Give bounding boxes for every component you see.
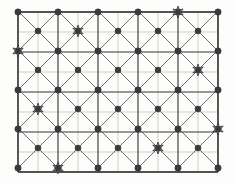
mesh-figure [0, 0, 235, 183]
mesh-node-dot [215, 87, 221, 93]
mesh-node-dot [95, 48, 101, 54]
mesh-node-dot [15, 126, 21, 132]
mesh-node-dot [215, 9, 221, 15]
mesh-node-dot [15, 87, 21, 93]
mesh-node-dot [35, 67, 41, 73]
mesh-node-dot [15, 165, 21, 171]
mesh-node-dot [155, 67, 161, 73]
mesh-node-dot [175, 165, 181, 171]
mesh-node-dot [95, 9, 101, 15]
mesh-node-dot [55, 126, 61, 132]
mesh-node-star-core [175, 9, 180, 14]
mesh-node-dot [115, 67, 121, 73]
mesh-node-star-core [15, 48, 20, 53]
mesh-node-star-core [155, 145, 160, 150]
mesh-node-dot [35, 28, 41, 34]
mesh-node-dot [175, 126, 181, 132]
mesh-node-dot [75, 67, 81, 73]
mesh-node-dot [195, 145, 201, 151]
mesh-node-dot [135, 48, 141, 54]
mesh-node-dot [55, 48, 61, 54]
mesh-node-dot [75, 145, 81, 151]
mesh-node-star-core [55, 165, 60, 170]
mesh-node-dot [75, 106, 81, 112]
mesh-node-dot [215, 48, 221, 54]
mesh-node-dot [135, 87, 141, 93]
mesh-node-dot [115, 145, 121, 151]
mesh-node-dot [175, 87, 181, 93]
mesh-node-dot [195, 106, 201, 112]
mesh-node-dot [15, 9, 21, 15]
mesh-node-dot [95, 165, 101, 171]
mesh-node-dot [215, 165, 221, 171]
mesh-node-dot [155, 28, 161, 34]
mesh-node-dot [55, 87, 61, 93]
mesh-node-star-core [35, 106, 40, 111]
mesh-node-dot [95, 87, 101, 93]
mesh-node-dot [95, 126, 101, 132]
mesh-node-star-core [75, 28, 80, 33]
mesh-node-dot [175, 48, 181, 54]
mesh-node-dot [35, 145, 41, 151]
mesh-canvas [0, 0, 235, 183]
mesh-node-dot [135, 165, 141, 171]
mesh-node-dot [135, 126, 141, 132]
mesh-node-dot [115, 28, 121, 34]
mesh-node-dot [55, 9, 61, 15]
mesh-node-dot [155, 106, 161, 112]
mesh-node-dot [115, 106, 121, 112]
mesh-node-star-core [215, 126, 220, 131]
mesh-node-dot [195, 28, 201, 34]
mesh-node-star-core [195, 67, 200, 72]
mesh-node-dot [135, 9, 141, 15]
